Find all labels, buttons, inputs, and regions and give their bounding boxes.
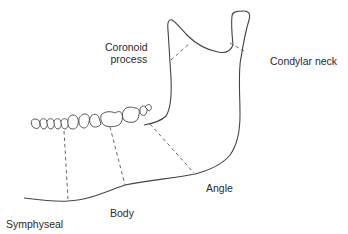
mandible-drawing	[0, 0, 348, 234]
body-angle-boundary	[150, 124, 194, 173]
label-symphyseal: Symphyseal	[6, 218, 63, 230]
body-boundary-1	[110, 127, 125, 185]
label-body: Body	[110, 207, 134, 219]
label-coronoid-line2: process	[105, 53, 148, 65]
coronoid-boundary	[171, 43, 190, 60]
mandible-diagram: Coronoid process Condylar neck Angle Bod…	[0, 0, 348, 234]
teeth-row	[31, 105, 151, 129]
label-coronoid-line1: Coronoid	[105, 41, 148, 53]
label-coronoid-process: Coronoid process	[105, 41, 148, 65]
label-angle: Angle	[206, 182, 233, 194]
label-condylar-neck: Condylar neck	[270, 55, 337, 67]
symphyseal-body-boundary	[64, 131, 68, 199]
mandible-outline	[24, 11, 250, 201]
